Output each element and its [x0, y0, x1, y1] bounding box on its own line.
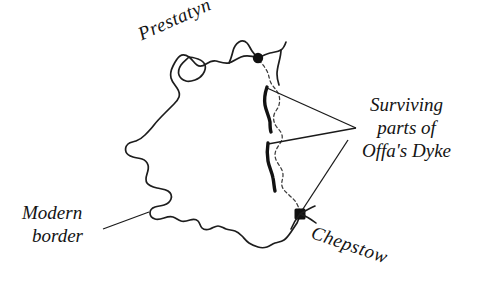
- map-label-offas-dyke: Surviving parts of Offa's Dyke: [362, 93, 451, 163]
- wales-offas-dyke-map: Prestatyn Chepstow Modern border Survivi…: [0, 0, 486, 288]
- modern-border-line-2: border: [22, 224, 83, 247]
- leader-to-dyke-south: [268, 128, 356, 144]
- leader-to-chepstow: [301, 140, 348, 212]
- marker-prestatyn: [253, 53, 263, 63]
- surviving-line-1: Surviving: [362, 93, 451, 116]
- wales-coastline: [126, 41, 300, 248]
- dyke-leader-lines: [267, 88, 356, 212]
- leader-to-dyke-north: [267, 88, 356, 128]
- modern-border-line: [259, 60, 300, 214]
- map-label-modern-border: Modern border: [22, 201, 83, 247]
- surviving-line-2: parts of: [362, 116, 451, 139]
- dyke-segment-south: [267, 143, 275, 191]
- dyke-segment-north: [265, 87, 271, 132]
- offas-dyke-segments: [265, 87, 275, 191]
- modern-border-leader: [103, 212, 149, 229]
- modern-border-line-1: Modern: [22, 201, 83, 224]
- surviving-line-3: Offa's Dyke: [362, 139, 451, 162]
